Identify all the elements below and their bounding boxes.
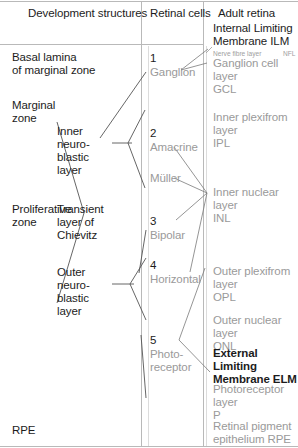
cell-name-ganglion: Ganglion <box>150 66 195 79</box>
connector-basal-to-ganglion <box>100 72 146 138</box>
connector-photoreceptor-riser <box>141 335 146 398</box>
retina-development-diagram: Development structures Retinal cells Adu… <box>0 0 298 448</box>
connector-onb-bracket <box>130 258 146 320</box>
cell-name-amacrine: Amacrine <box>150 141 198 154</box>
layer-opl: Outer plexifrom layer OPL <box>213 265 298 304</box>
layer-prl: Photoreceptor layer P <box>213 383 298 422</box>
cell-number-4: 4 <box>150 259 156 272</box>
label-transient-layer-of-chievitz: Transient layer of Chievitz <box>57 203 104 242</box>
connector-bipolar <box>139 230 146 273</box>
layer-ilm: Internal Limiting Membrane ILM <box>213 22 292 48</box>
label-rpe-left: RPE <box>12 424 35 437</box>
connector-ilm-tick <box>206 47 212 53</box>
label-basal-lamina: Basal lamina of marginal zone <box>12 51 95 77</box>
layer-rpe: Retinal pigment epithelium RPE <box>213 420 291 446</box>
header-development-structures: Development structures <box>28 7 147 20</box>
connector-horizontal-to-inl <box>190 193 207 272</box>
cell-number-2: 2 <box>150 127 156 140</box>
cell-number-1: 1 <box>150 52 156 65</box>
label-inner-neuroblastic-layer: Inner neuro- blastic layer <box>57 125 90 177</box>
layer-elm: External Limiting Membrane ELM <box>213 347 298 386</box>
connector-inb-bracket <box>128 110 145 188</box>
cell-name-muller: Müller <box>150 172 181 185</box>
header-retinal-cells: Retinal cells <box>150 7 211 20</box>
header-adult-retina: Adult retina <box>218 7 275 20</box>
label-outer-neuroblastic-layer: Outer neuro- blastic layer <box>57 266 90 318</box>
cell-name-bipolar: Bipolar <box>150 229 185 242</box>
label-marginal-zone: Marginal zone <box>12 99 55 125</box>
layer-ipl: Inner plexifrom layer IPL <box>213 111 298 150</box>
cell-number-3: 3 <box>150 215 156 228</box>
layer-gcl: Ganglion cell layer GCL <box>213 57 298 96</box>
cell-number-5: 5 <box>150 334 156 347</box>
layer-inl: Inner nuclear layer INL <box>213 186 298 225</box>
cell-name-photoreceptor: Photo- receptor <box>150 348 191 374</box>
cell-name-horizontal: Horizontal <box>150 273 201 286</box>
connector-bipolar-to-inl <box>176 193 207 220</box>
